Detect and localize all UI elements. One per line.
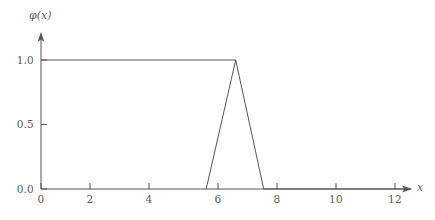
chart-canvas: [0, 0, 435, 220]
y-tick-label-1.0: 1.0: [0, 54, 34, 66]
series-phi-line: [41, 60, 411, 189]
chart-figure: 1.0 0.5 0.0 0 2 4 6 8 10 12 φ(x) x: [0, 0, 435, 220]
x-tick-label-0: 0: [27, 193, 55, 205]
x-tick-label-6: 6: [204, 193, 232, 205]
x-tick-label-4: 4: [135, 193, 163, 205]
x-tick-label-12: 12: [381, 193, 409, 205]
x-tick-label-8: 8: [263, 193, 291, 205]
y-tick-marks: [41, 60, 47, 189]
x-axis-title: x: [417, 181, 423, 194]
x-tick-marks: [41, 183, 395, 189]
x-tick-label-2: 2: [76, 193, 104, 205]
y-axis-title: φ(x): [29, 9, 52, 22]
x-tick-label-10: 10: [322, 193, 350, 205]
axes-group: [38, 32, 412, 192]
series-phi-rising-edge-line: [206, 60, 236, 189]
data-series-group: [41, 60, 411, 189]
y-tick-label-0.5: 0.5: [0, 118, 34, 130]
